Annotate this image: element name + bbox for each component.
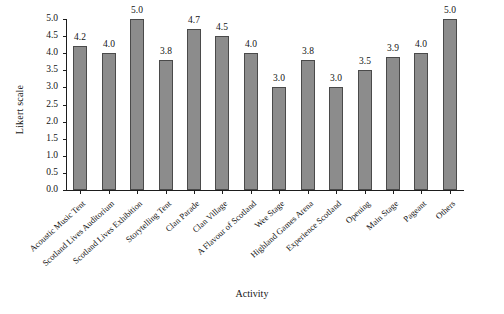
x-tick-mark: [365, 191, 366, 194]
bar: [358, 70, 372, 190]
x-tick-mark: [166, 191, 167, 194]
y-tick-label: 2.5: [30, 100, 58, 110]
y-tick-mark: [63, 87, 66, 88]
bar-value-label: 3.0: [322, 74, 350, 84]
x-tick-mark: [251, 191, 252, 194]
x-tick-mark: [137, 191, 138, 194]
y-tick-mark: [63, 19, 66, 20]
y-tick-mark: [63, 70, 66, 71]
y-tick-mark: [63, 156, 66, 157]
y-tick-label: 4.0: [30, 48, 58, 58]
x-tick-mark: [80, 191, 81, 194]
bar-value-label: 3.0: [265, 74, 293, 84]
bar-value-label: 3.8: [152, 47, 180, 57]
caption-fragment: [22, 307, 442, 314]
bar-value-label: 3.9: [379, 44, 407, 54]
x-axis-line: [66, 190, 464, 191]
y-tick-mark: [63, 122, 66, 123]
x-tick-mark: [194, 191, 195, 194]
y-tick-mark: [63, 105, 66, 106]
bar: [159, 60, 173, 190]
bar: [215, 36, 229, 190]
y-tick-label: 2.0: [30, 117, 58, 127]
x-category-label: Pageant: [318, 199, 428, 299]
x-tick-mark: [109, 191, 110, 194]
x-tick-mark: [279, 191, 280, 194]
bar-value-label: 4.0: [407, 40, 435, 50]
x-tick-mark: [336, 191, 337, 194]
bar: [102, 53, 116, 190]
x-tick-mark: [222, 191, 223, 194]
x-category-label: Main Stage: [290, 199, 400, 299]
y-tick-label: 0.0: [30, 185, 58, 195]
bar: [301, 60, 315, 190]
bar: [386, 57, 400, 190]
bar-value-label: 4.7: [180, 16, 208, 26]
y-tick-mark: [63, 53, 66, 54]
x-tick-mark: [450, 191, 451, 194]
x-category-label: Others: [347, 199, 457, 299]
y-tick-label: 5.0: [30, 14, 58, 24]
x-axis-title: Activity: [0, 288, 504, 299]
bar: [272, 87, 286, 190]
y-tick-label: 0.5: [30, 168, 58, 178]
bar: [73, 46, 87, 190]
y-tick-label: 4.5: [30, 31, 58, 41]
bar-value-label: 4.0: [237, 40, 265, 50]
bar-value-label: 5.0: [436, 6, 464, 16]
bar: [244, 53, 258, 190]
y-tick-label: 1.0: [30, 151, 58, 161]
bar: [130, 19, 144, 190]
x-tick-mark: [393, 191, 394, 194]
y-tick-label: 1.5: [30, 134, 58, 144]
bar-value-label: 4.0: [95, 40, 123, 50]
bar-value-label: 4.2: [66, 33, 94, 43]
y-tick-label: 3.5: [30, 65, 58, 75]
bar-value-label: 3.8: [294, 47, 322, 57]
bar: [187, 29, 201, 190]
bar: [414, 53, 428, 190]
bar: [443, 19, 457, 190]
y-axis-line: [66, 19, 67, 191]
x-tick-mark: [421, 191, 422, 194]
y-tick-mark: [63, 139, 66, 140]
bar-value-label: 3.5: [351, 57, 379, 67]
bar-chart-figure: Likert scale 0.00.51.01.52.02.53.03.54.0…: [0, 0, 504, 314]
x-tick-mark: [308, 191, 309, 194]
y-axis-title: Likert scale: [14, 45, 25, 175]
bar: [329, 87, 343, 190]
y-tick-mark: [63, 190, 66, 191]
bar-value-label: 5.0: [123, 6, 151, 16]
bar-value-label: 4.5: [208, 23, 236, 33]
y-tick-mark: [63, 173, 66, 174]
y-tick-label: 3.0: [30, 82, 58, 92]
